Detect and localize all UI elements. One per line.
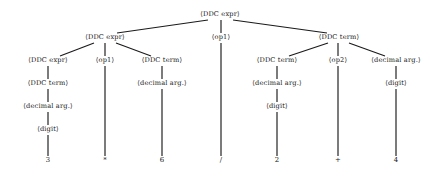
tree-node-n13: ⟨digit⟩	[385, 79, 407, 87]
tree-terminal-layer: 3*6/2+4	[46, 156, 399, 164]
tree-terminal-t4: 2	[275, 156, 279, 164]
tree-terminal-t3: /	[220, 156, 223, 164]
tree-node-n0: ⟨DDC expr⟩	[200, 10, 240, 18]
tree-node-n1: ⟨DDC expr⟩	[85, 33, 125, 41]
tree-node-n7: ⟨DDC term⟩	[257, 56, 298, 64]
tree-terminal-t6: 4	[394, 156, 399, 164]
tree-terminal-t2: 6	[160, 156, 164, 164]
tree-edge	[60, 43, 94, 56]
tree-node-n10: ⟨DDC term⟩	[28, 79, 69, 87]
tree-node-n5: ⟨op1⟩	[96, 56, 114, 64]
tree-node-layer: ⟨DDC expr⟩⟨DDC expr⟩⟨op1⟩⟨DDC term⟩⟨DDC …	[23, 10, 420, 133]
tree-node-n15: ⟨digit⟩	[266, 102, 288, 110]
tree-node-n8: ⟨op2⟩	[329, 56, 347, 64]
tree-node-n9: ⟨decimal arg.⟩	[371, 56, 420, 64]
tree-node-n4: ⟨DDC expr⟩	[28, 56, 68, 64]
tree-node-n12: ⟨decimal arg.⟩	[252, 79, 301, 87]
tree-edge	[349, 43, 385, 56]
tree-edge	[289, 43, 328, 56]
tree-node-n2: ⟨op1⟩	[212, 33, 230, 41]
tree-edge	[233, 20, 327, 33]
tree-node-n3: ⟨DDC term⟩	[319, 33, 360, 41]
tree-edge	[116, 43, 151, 56]
tree-terminal-t0: 3	[46, 156, 50, 164]
tree-terminal-t1: *	[103, 156, 107, 164]
tree-node-n14: ⟨decimal arg.⟩	[23, 102, 72, 110]
tree-node-n6: ⟨DDC term⟩	[142, 56, 183, 64]
tree-node-n11: ⟨decimal arg.⟩	[137, 79, 186, 87]
parse-tree-canvas: ⟨DDC expr⟩⟨DDC expr⟩⟨op1⟩⟨DDC term⟩⟨DDC …	[0, 0, 440, 172]
parse-tree-figure: ⟨DDC expr⟩⟨DDC expr⟩⟨op1⟩⟨DDC term⟩⟨DDC …	[0, 0, 440, 172]
tree-terminal-t5: +	[335, 156, 341, 164]
tree-edge	[117, 20, 208, 33]
tree-node-n16: ⟨digit⟩	[37, 125, 59, 133]
